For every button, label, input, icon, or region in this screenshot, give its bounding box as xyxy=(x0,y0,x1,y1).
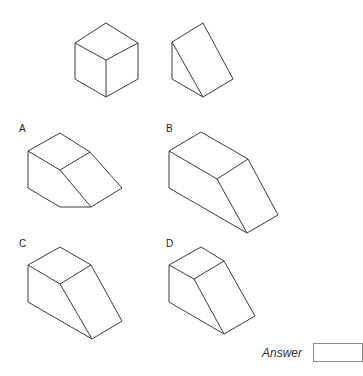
answer-label: Answer xyxy=(262,346,302,360)
option-c-shape xyxy=(28,247,122,339)
option-a-label: A xyxy=(19,123,26,134)
reference-wedge xyxy=(172,23,233,97)
option-d-label: D xyxy=(166,238,173,249)
option-a-shape xyxy=(28,133,122,207)
option-d-shape xyxy=(169,247,255,334)
option-b-shape xyxy=(169,132,278,233)
reference-cube xyxy=(75,23,138,97)
option-c-label: C xyxy=(19,238,26,249)
option-b-label: B xyxy=(166,123,173,134)
answer-input[interactable] xyxy=(313,343,363,362)
